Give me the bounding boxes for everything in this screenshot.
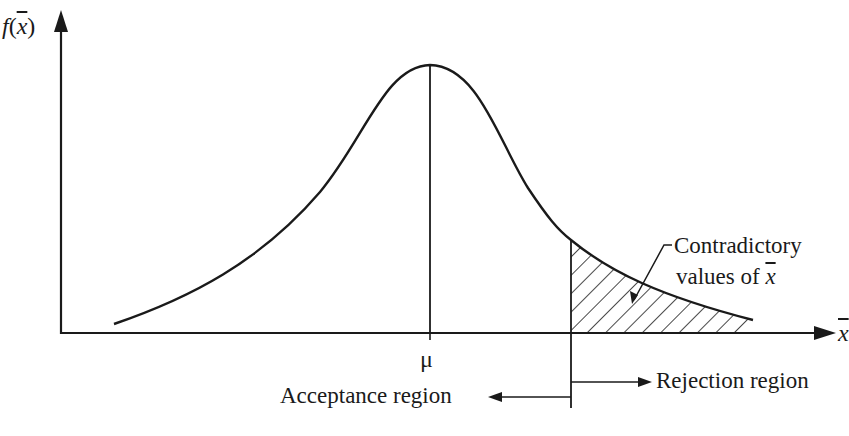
y-axis-var: x (17, 13, 28, 39)
x-axis-arrow-icon (814, 326, 836, 340)
y-axis-close-paren: ) (27, 13, 35, 39)
annotation-var: x (765, 264, 775, 289)
acceptance-region-label: Acceptance region (280, 384, 452, 407)
y-axis-open-paren: ( (9, 13, 17, 39)
annotation-line-2: values of x (676, 265, 776, 288)
y-axis-label: f(x) (2, 14, 35, 38)
y-axis-arrow-icon (54, 10, 68, 32)
y-axis-func: f (2, 13, 9, 39)
rejection-region-label: Rejection region (656, 369, 809, 392)
density-curve (114, 65, 753, 324)
rejection-arrow-icon (638, 377, 652, 387)
mean-label: μ (420, 347, 433, 371)
annotation-line-1: Contradictory (674, 234, 802, 257)
annotation-prefix: values of (676, 264, 765, 289)
x-axis-label: x (838, 321, 849, 345)
acceptance-arrow-icon (488, 392, 502, 402)
